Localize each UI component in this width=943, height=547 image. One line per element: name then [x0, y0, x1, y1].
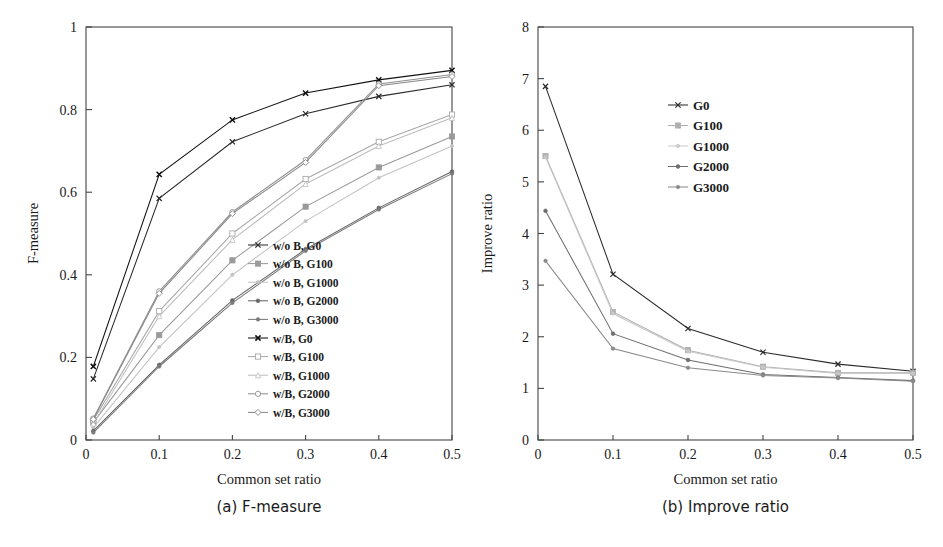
- y-tick-label: 7: [522, 72, 529, 87]
- data-point-marker: [230, 117, 235, 122]
- y-axis-title: Improve ratio: [479, 194, 495, 273]
- chart-a-svg: 00.10.20.30.40.500.20.40.60.81F-measureC…: [0, 0, 470, 547]
- legend-marker-glyph: [256, 281, 259, 284]
- data-point-marker: [92, 431, 96, 435]
- y-tick-label: 8: [522, 20, 529, 35]
- data-point-marker: [377, 176, 380, 179]
- data-point-marker: [303, 204, 308, 209]
- x-axis-title: Common set ratio: [217, 471, 321, 487]
- y-tick-label: 4: [522, 227, 529, 242]
- data-point-marker: [91, 376, 96, 381]
- data-point-marker: [761, 374, 765, 378]
- data-point-marker: [230, 258, 235, 263]
- x-tick-label: 0.5: [443, 447, 461, 462]
- x-tick-label: 0.2: [224, 447, 242, 462]
- data-point-marker: [450, 144, 453, 147]
- data-point-marker: [611, 347, 615, 351]
- data-point-marker: [544, 259, 548, 263]
- panel-caption: (a) F-measure: [216, 498, 321, 516]
- data-point-marker: [686, 358, 690, 362]
- panel-improve-ratio: 00.10.20.30.40.5012345678Improve ratioCo…: [470, 0, 943, 547]
- data-point-marker: [303, 181, 308, 186]
- data-point-marker: [376, 165, 381, 170]
- y-tick-label: 0.2: [60, 350, 78, 365]
- data-point-marker: [157, 196, 162, 201]
- legend-label: w/o B, G1000: [273, 277, 339, 289]
- data-point-marker: [611, 332, 615, 336]
- x-tick-label: 0.5: [904, 447, 922, 462]
- y-tick-label: 3: [522, 278, 529, 293]
- chart-b-svg: 00.10.20.30.40.5012345678Improve ratioCo…: [470, 0, 943, 547]
- legend-marker-glyph: [255, 354, 260, 359]
- legend-label: w/o B, G100: [273, 258, 333, 270]
- figure-container: 00.10.20.30.40.500.20.40.60.81F-measureC…: [0, 0, 943, 547]
- x-tick-label: 0: [535, 447, 542, 462]
- x-axis-title: Common set ratio: [674, 471, 778, 487]
- y-tick-label: 0.4: [60, 268, 78, 283]
- x-tick-label: 0.4: [370, 447, 388, 462]
- data-point-marker: [304, 219, 307, 222]
- legend-marker-glyph: [676, 144, 679, 147]
- data-point-marker: [836, 376, 840, 380]
- y-tick-label: 1: [522, 381, 529, 396]
- legend-marker-glyph: [255, 409, 261, 415]
- data-point-marker: [544, 209, 548, 213]
- data-point-marker: [544, 155, 547, 158]
- legend-label: w/o B, G2000: [273, 295, 339, 307]
- data-point-marker: [543, 84, 548, 89]
- legend-label: w/B, G1000: [273, 370, 330, 382]
- x-tick-label: 0.3: [297, 447, 315, 462]
- data-point-marker: [686, 350, 689, 353]
- legend-label: w/B, G0: [273, 333, 313, 345]
- data-point-marker: [911, 372, 914, 375]
- y-tick-label: 2: [522, 330, 529, 345]
- series-line-0: [546, 86, 914, 371]
- y-tick-label: 1: [70, 20, 77, 35]
- data-point-marker: [157, 365, 161, 369]
- legend-label: G2000: [693, 159, 729, 174]
- y-tick-label: 6: [522, 123, 529, 138]
- legend-label: w/o B, G3000: [273, 314, 339, 326]
- legend-label: G1000: [693, 139, 729, 154]
- data-point-marker: [158, 345, 161, 348]
- y-tick-label: 0.8: [60, 103, 78, 118]
- y-tick-label: 5: [522, 175, 529, 190]
- legend-marker-glyph: [256, 318, 260, 322]
- legend-marker-glyph: [676, 165, 680, 169]
- data-point-marker: [157, 172, 162, 177]
- legend-label: w/o B, G0: [273, 240, 321, 252]
- data-point-marker: [449, 134, 454, 139]
- data-point-marker: [685, 326, 690, 331]
- legend-label: G3000: [693, 180, 729, 195]
- legend-label: w/B, G2000: [273, 388, 330, 400]
- legend-marker-glyph: [255, 391, 260, 396]
- series-line-2: [546, 157, 914, 373]
- data-point-marker: [611, 312, 614, 315]
- data-point-marker: [450, 172, 454, 176]
- data-point-marker: [686, 366, 690, 370]
- panel-caption: (b) Improve ratio: [662, 498, 789, 516]
- series-line-1: [546, 156, 914, 373]
- data-point-marker: [610, 272, 615, 277]
- legend-marker-glyph: [675, 123, 680, 128]
- legend-label: w/B, G3000: [273, 407, 330, 419]
- data-point-marker: [230, 139, 235, 144]
- data-point-marker: [377, 208, 381, 212]
- data-point-marker: [231, 301, 235, 305]
- series-line-3: [546, 211, 914, 381]
- x-tick-label: 0.2: [679, 447, 697, 462]
- legend-marker-glyph: [255, 261, 260, 266]
- data-point-marker: [91, 364, 96, 369]
- y-tick-label: 0: [522, 433, 529, 448]
- y-axis-title: F-measure: [25, 203, 41, 264]
- x-tick-label: 0.3: [754, 447, 772, 462]
- data-point-marker: [231, 273, 234, 276]
- legend-label: G100: [693, 118, 723, 133]
- x-tick-label: 0: [83, 447, 90, 462]
- y-tick-label: 0: [70, 433, 77, 448]
- data-point-marker: [761, 366, 764, 369]
- data-point-marker: [157, 332, 162, 337]
- legend-marker-glyph: [676, 185, 680, 189]
- series-line-4: [546, 261, 914, 381]
- data-point-marker: [230, 231, 235, 236]
